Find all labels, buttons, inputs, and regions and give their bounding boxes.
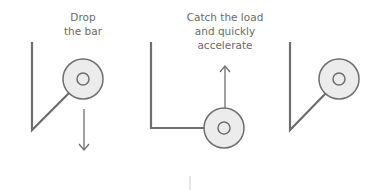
plate-hub-icon: [218, 122, 230, 134]
panel-drop-label-line-2: the bar: [64, 25, 103, 37]
panel-catch-label-line-2: and quickly: [195, 25, 255, 37]
plate-hub-icon: [77, 73, 89, 85]
panel-drop: Drop the bar: [32, 11, 103, 150]
arrow-up-icon: [220, 66, 230, 108]
panel-catch: Catch the load and quickly accelerate: [151, 11, 263, 190]
panel-catch-label-line-1: Catch the load: [187, 11, 264, 23]
exercise-diagram: Drop the bar Catch the load and quickly …: [0, 0, 389, 190]
panel-drop-label-line-1: Drop: [70, 11, 96, 23]
panel-catch-label-line-3: accelerate: [197, 39, 252, 51]
plate-hub-icon: [333, 73, 345, 85]
body-lever-icon: [32, 43, 69, 130]
panel-release: [290, 43, 359, 130]
body-lever-icon: [151, 43, 205, 128]
arrow-down-icon: [79, 109, 89, 150]
